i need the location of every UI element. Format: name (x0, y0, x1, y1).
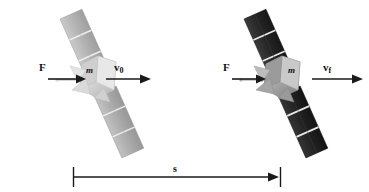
vector-arrows-layer (0, 0, 369, 192)
velocity-arrow-final (312, 75, 363, 84)
label-force-right: F (223, 62, 230, 73)
label-displacement: s (173, 164, 177, 174)
label-mass-right: m (288, 66, 295, 75)
velocity-final-subscript: f (329, 66, 332, 75)
label-force-left: F (39, 62, 46, 73)
force-arrow-left (48, 75, 86, 84)
label-velocity-final: vf (323, 62, 331, 75)
physics-diagram: F v0 F vf m m s (0, 0, 369, 192)
label-mass-left: m (86, 66, 93, 75)
velocity-arrow-initial (106, 75, 151, 84)
force-arrow-right (232, 75, 266, 84)
label-velocity-initial: v0 (114, 62, 124, 75)
velocity-initial-subscript: 0 (120, 66, 124, 75)
